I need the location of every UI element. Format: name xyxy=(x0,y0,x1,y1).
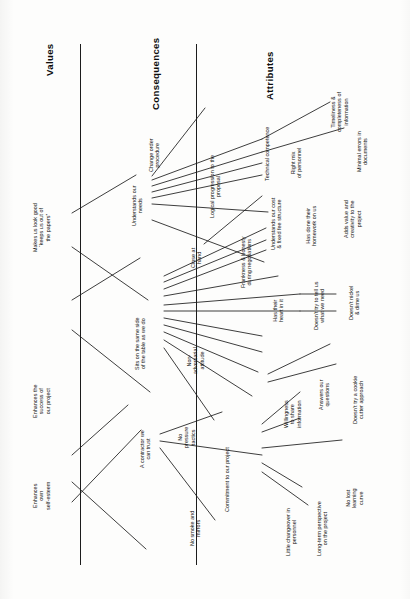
divider-consequences-attributes xyxy=(196,44,197,565)
diagram-page: Values Consequences Attributes Makes us … xyxy=(0,0,410,599)
node-attributes-logical-progression[interactable]: Logical progression to theproposal xyxy=(209,155,222,218)
node-attributes-technical-competence[interactable]: Technical competence xyxy=(264,127,270,181)
node-attributes-answers-our-questions[interactable]: Answers ourquestions xyxy=(318,379,331,410)
node-attributes-minimal-errors[interactable]: Minimal errors indocuments xyxy=(356,131,369,172)
node-label-line: questions xyxy=(324,379,330,410)
node-label-line: on the project xyxy=(322,501,328,556)
column-header-consequences: Consequences xyxy=(150,38,161,110)
node-values-enhances-success[interactable]: Enhances thesuccess ofour project xyxy=(32,384,51,418)
node-label-line: information xyxy=(296,400,302,428)
node-label-line: heart in it xyxy=(278,299,284,322)
node-label-line: learning xyxy=(351,488,357,508)
node-consequences-understands-our-needs[interactable]: Understands ourneeds xyxy=(131,185,144,226)
node-label-line: of personnel xyxy=(296,148,302,178)
diagram-canvas: Values Consequences Attributes Makes us … xyxy=(0,0,410,599)
node-attributes-timeliness-completeness[interactable]: Timeliness &completeness ofinformation xyxy=(330,92,349,132)
node-label-line: pressure xyxy=(183,427,189,448)
node-label-line: success of xyxy=(38,384,44,418)
node-attributes-long-term-perspective[interactable]: Long-term perspectiveon the project xyxy=(316,501,329,556)
node-label-line: hand xyxy=(196,248,202,268)
node-values-enhances-self-esteem[interactable]: Enhancesownself-esteem xyxy=(32,482,51,510)
divider-values-consequences xyxy=(80,44,81,565)
node-label-line: “keeps us out of xyxy=(38,203,44,252)
node-label-line: cutter approach xyxy=(358,376,364,424)
node-label-line: personnel xyxy=(291,508,297,556)
node-label-line: procedure xyxy=(154,138,160,172)
node-attributes-adds-value-creativity[interactable]: Adds value andcreativity to theproject xyxy=(343,200,362,238)
node-label-line: mirrors xyxy=(195,511,201,546)
node-consequences-close-at-hand[interactable]: Close athand xyxy=(190,248,203,268)
node-label-line: of the table as we do xyxy=(140,317,146,370)
node-values-makes-us-look-good[interactable]: Makes us look good“keeps us out ofthe pa… xyxy=(32,203,51,252)
node-attributes-willingness-to-share[interactable]: Willingnessto shareinformation xyxy=(283,400,302,428)
node-attributes-understands-cost-fee[interactable]: Understands our cost& fixed fee structur… xyxy=(270,198,283,250)
node-label-line: information xyxy=(343,92,349,132)
node-label-line: proposal xyxy=(215,155,221,218)
node-attributes-no-lost-learning-curve[interactable]: No lostlearningcurve xyxy=(345,488,364,508)
node-attributes-frankness-honesty[interactable]: Frankness & honestyduring negotiations xyxy=(240,236,253,288)
node-label-line: completeness of xyxy=(336,92,342,132)
column-header-attributes: Attributes xyxy=(264,51,275,100)
node-label-line: during negotiations xyxy=(246,236,252,288)
node-label-line: curve xyxy=(358,488,364,508)
node-consequences-contractor-we-can-trust[interactable]: A contractor wecan trust xyxy=(139,430,152,468)
node-label-line: documents xyxy=(362,131,368,172)
node-attributes-doesnt-tell-us-what-we-need[interactable]: Doesn’t try to tell uswhat we need xyxy=(313,282,326,330)
node-label-line: homework on us xyxy=(311,206,317,246)
node-consequences-commitment-to-our-project[interactable]: Commitment to our project xyxy=(224,447,230,512)
node-consequences-non-adversarial[interactable]: Non-adversarialattitude xyxy=(186,347,205,374)
node-attributes-right-mix-of-personnel[interactable]: Right mixof personnel xyxy=(290,148,303,178)
node-label-line: our project xyxy=(45,384,51,418)
node-label-line: to share xyxy=(289,400,295,428)
node-attributes-doesnt-nickel-dime[interactable]: Doesn’t nickel& dime us xyxy=(348,286,361,320)
node-label-line: attitude xyxy=(199,347,205,374)
node-label-line: needs xyxy=(137,185,143,226)
node-label-line: creativity to the xyxy=(349,200,355,238)
node-label-line: & fixed fee structure xyxy=(276,198,282,250)
node-label-line: project xyxy=(356,200,362,238)
node-label-line: can trust xyxy=(145,430,151,468)
node-label-line: the papers” xyxy=(45,203,51,252)
node-attributes-has-done-homework[interactable]: Has done theirhomework on us xyxy=(305,206,318,246)
node-consequences-no-pressure-tactics[interactable]: Nopressuretactics xyxy=(177,427,196,448)
node-attributes-doesnt-cookie-cutter[interactable]: Doesn’t try a cookiecutter approach xyxy=(352,376,365,424)
node-label-line: tactics xyxy=(190,427,196,448)
node-label-line: self-esteem xyxy=(45,482,51,510)
node-attributes-little-changeover[interactable]: Little changeover inpersonnel xyxy=(285,508,298,556)
node-consequences-change-order-procedure[interactable]: Change orderprocedure xyxy=(148,138,161,172)
column-header-values: Values xyxy=(44,43,55,76)
node-label-line: what we need xyxy=(319,282,325,330)
node-label-line: adversarial xyxy=(192,347,198,374)
node-attributes-has-their-heart-in-it[interactable]: Has theirheart in it xyxy=(272,299,285,322)
node-consequences-sits-same-side[interactable]: Sits on the same sideof the table as we … xyxy=(134,317,147,370)
node-label-line: & dime us xyxy=(354,286,360,320)
node-consequences-no-smoke-and-mirrors[interactable]: No smoke andmirrors xyxy=(189,511,202,546)
